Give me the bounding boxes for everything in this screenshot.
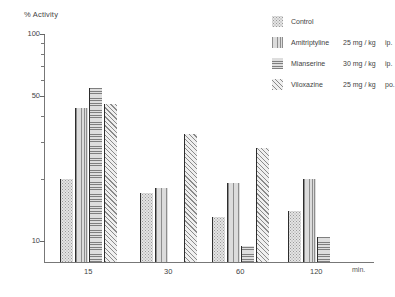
bar-control-15min[interactable] [60, 179, 73, 262]
y-axis-minor-tick [41, 54, 45, 55]
legend-label-mianserine: Mianserine [291, 60, 343, 67]
y-axis-tick-label: 10 [4, 236, 40, 245]
bar-amitriptyline-120min[interactable] [303, 179, 316, 262]
y-axis-tick-label: 100 [4, 29, 40, 38]
y-axis-minor-tick [41, 142, 45, 143]
bar-viloxazine-60min[interactable] [256, 148, 269, 262]
bar-amitriptyline-60min[interactable] [227, 183, 240, 262]
legend-item-control[interactable]: Control [272, 16, 385, 27]
y-axis-minor-tick [41, 80, 45, 81]
legend-route-viloxazine: po. [385, 81, 395, 88]
y-axis-minor-tick [41, 179, 45, 180]
y-axis-tick [40, 241, 45, 242]
y-axis-title: % Activity [24, 10, 58, 19]
y-axis-line [44, 34, 45, 262]
x-axis-tick-label: 15 [68, 267, 108, 276]
bar-viloxazine-15min[interactable] [104, 104, 117, 262]
y-axis-minor-tick [41, 43, 45, 44]
y-axis-tick-label: 50 [4, 91, 40, 100]
legend-item-amitriptyline[interactable]: Amitriptyline 25 mg / kg ip. [272, 37, 392, 48]
legend-label-control: Control [291, 18, 343, 25]
legend-swatch-viloxazine-icon [272, 79, 283, 90]
y-axis-tick [40, 34, 45, 35]
legend-dose-mianserine: 30 mg / kg [343, 60, 385, 67]
legend-dose-amitriptyline: 25 mg / kg [343, 39, 385, 46]
legend-swatch-amitriptyline-icon [272, 37, 283, 48]
bar-amitriptyline-15min[interactable] [75, 108, 88, 262]
legend-route-mianserine: ip. [385, 60, 392, 67]
x-axis-tick-label: 30 [148, 267, 188, 276]
legend-swatch-control-icon [272, 16, 283, 27]
x-axis-line [44, 262, 374, 263]
legend-label-amitriptyline: Amitriptyline [291, 39, 343, 46]
x-axis-unit-label: min. [352, 266, 365, 273]
bar-mianserine-120min[interactable] [317, 237, 330, 262]
bar-viloxazine-30min[interactable] [184, 134, 197, 262]
legend-dose-viloxazine: 25 mg / kg [343, 81, 385, 88]
bar-control-30min[interactable] [140, 193, 153, 262]
bar-mianserine-15min[interactable] [89, 88, 102, 262]
bar-control-120min[interactable] [288, 211, 301, 262]
bar-control-60min[interactable] [212, 217, 225, 262]
x-axis-tick-label: 120 [296, 267, 336, 276]
legend-route-amitriptyline: ip. [385, 39, 392, 46]
legend-swatch-mianserine-icon [272, 58, 283, 69]
y-axis-minor-tick [41, 66, 45, 67]
legend-item-mianserine[interactable]: Mianserine 30 mg / kg ip. [272, 58, 392, 69]
legend-label-viloxazine: Viloxazine [291, 81, 343, 88]
legend-item-viloxazine[interactable]: Viloxazine 25 mg / kg po. [272, 79, 395, 90]
bar-mianserine-60min[interactable] [241, 246, 254, 262]
y-axis-tick [40, 96, 45, 97]
bar-amitriptyline-30min[interactable] [155, 188, 168, 262]
y-axis-minor-tick [41, 116, 45, 117]
x-axis-tick-label: 60 [220, 267, 260, 276]
